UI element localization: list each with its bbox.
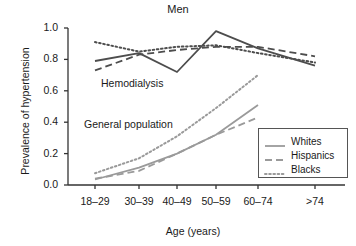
legend-swatch-icon — [264, 137, 286, 147]
legend-item-blacks[interactable]: Blacks — [264, 162, 320, 177]
x-tick-label: 60–74 — [235, 195, 281, 207]
y-tick-label: 0.4 — [28, 115, 58, 127]
annotation-general-population: General population — [84, 118, 173, 130]
x-tick-label: 18–29 — [72, 195, 118, 207]
series-line-hemodialysis-hispanics — [95, 47, 315, 71]
x-axis-label: Age (years) — [68, 225, 318, 237]
y-tick-label: 1.0 — [28, 21, 58, 33]
x-tick-label: 50–59 — [193, 195, 239, 207]
legend-swatch-icon — [264, 151, 286, 161]
legend-label: Hispanics — [291, 151, 334, 161]
chart-figure: Men Prevalence of hypertension Age (year… — [0, 0, 356, 246]
y-tick-label: 0.8 — [28, 52, 58, 64]
y-tick-label: 0.6 — [28, 84, 58, 96]
x-tick-label: >74 — [292, 195, 338, 207]
legend-label: Blacks — [291, 165, 320, 175]
chart-legend: WhitesHispanicsBlacks — [258, 128, 348, 178]
y-tick-label: 0.2 — [28, 147, 58, 159]
series-line-general-population-whites — [95, 105, 258, 180]
legend-label: Whites — [291, 137, 322, 147]
legend-item-whites[interactable]: Whites — [264, 134, 322, 149]
legend-item-hispanics[interactable]: Hispanics — [264, 148, 334, 163]
legend-swatch-icon — [264, 165, 286, 175]
y-tick-label: 0.0 — [28, 178, 58, 190]
chart-title: Men — [0, 3, 356, 15]
annotation-hemodialysis: Hemodialysis — [101, 77, 163, 89]
